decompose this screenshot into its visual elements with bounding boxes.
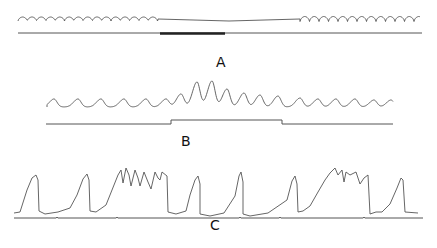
trace-b-waveform <box>47 81 393 107</box>
panel-label-a: A <box>216 54 226 70</box>
traces-canvas <box>0 0 437 248</box>
panel-label-c: C <box>210 217 220 233</box>
trace-c-waveform <box>14 168 418 216</box>
panel-a <box>18 17 422 34</box>
trace-b-stimulus-marker <box>46 120 393 124</box>
panel-label-b: B <box>181 133 191 149</box>
panel-c <box>14 168 423 218</box>
panel-b <box>46 81 393 124</box>
trace-a-waveform <box>18 17 420 22</box>
physiology-figure: A B C <box>0 0 437 248</box>
